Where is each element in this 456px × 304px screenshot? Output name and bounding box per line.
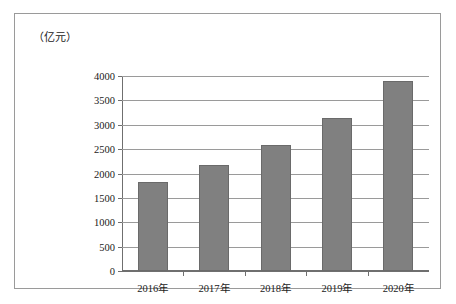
y-tick-mark — [118, 149, 122, 150]
y-tick-label: 3000 — [94, 119, 115, 130]
plot-area: 050010001500200025003000350040002016年201… — [122, 76, 429, 271]
y-tick-mark — [118, 198, 122, 199]
y-tick-mark — [118, 125, 122, 126]
x-tick-mark — [368, 271, 369, 276]
y-tick-label: 0 — [110, 266, 115, 277]
gridline-y-0 — [122, 271, 429, 272]
x-tick-label: 2020年 — [383, 280, 414, 295]
x-tick-label: 2018年 — [260, 280, 291, 295]
y-tick-mark — [118, 271, 122, 272]
x-tick-mark — [306, 271, 307, 276]
y-tick-label: 3500 — [94, 95, 115, 106]
y-tick-label: 4000 — [94, 71, 115, 82]
x-tick-label: 2019年 — [321, 280, 352, 295]
bar-2020年 — [383, 81, 413, 271]
bar-2019年 — [322, 118, 352, 271]
y-tick-label: 500 — [99, 241, 115, 252]
chart-figure: （亿元） 05001000150020002500300035004000201… — [14, 13, 441, 289]
y-tick-mark — [118, 76, 122, 77]
x-tick-label: 2017年 — [199, 280, 230, 295]
y-tick-mark — [118, 174, 122, 175]
x-tick-mark — [183, 271, 184, 276]
y-axis-unit-caption: （亿元） — [33, 28, 77, 44]
y-tick-mark — [118, 222, 122, 223]
x-tick-mark — [245, 271, 246, 276]
x-tick-label: 2016年 — [137, 280, 168, 295]
bar-2016年 — [138, 182, 168, 271]
gridline-y-4000 — [122, 76, 429, 77]
y-tick-mark — [118, 100, 122, 101]
y-tick-mark — [118, 247, 122, 248]
bar-2017年 — [199, 165, 229, 271]
bar-2018年 — [261, 145, 291, 271]
y-tick-label: 1000 — [94, 217, 115, 228]
y-tick-label: 2500 — [94, 144, 115, 155]
y-tick-label: 1500 — [94, 192, 115, 203]
y-tick-label: 2000 — [94, 168, 115, 179]
